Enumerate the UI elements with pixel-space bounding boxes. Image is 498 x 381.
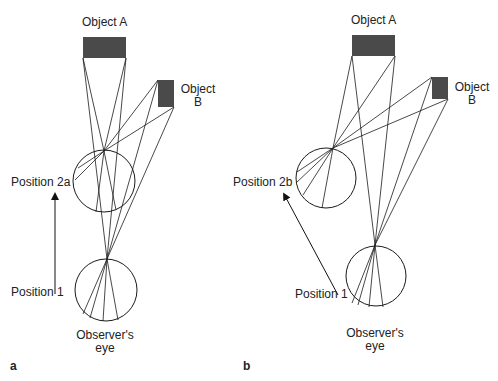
- light-ray-to-position-1: [103, 58, 126, 321]
- object-b-block: [158, 80, 174, 107]
- panel-a-object-b-label-line2: B: [178, 96, 218, 109]
- panel-b-object-b-label: Object B: [452, 81, 492, 107]
- eye-circle-position-2: [73, 150, 135, 212]
- panel-b-position-2b-label: Position 2b: [233, 176, 292, 189]
- object-a-block: [352, 35, 395, 56]
- panel-a-object-a-label: Object A: [82, 16, 127, 29]
- light-ray-to-position-1: [83, 107, 174, 314]
- eye-circle-position-2: [296, 148, 356, 208]
- panel-b-object-a-label: Object A: [351, 14, 396, 27]
- panel-a-letter: a: [10, 360, 17, 373]
- panel-b-observer-eye-label: Observer's eye: [340, 327, 410, 353]
- movement-arrow-icon: [285, 196, 338, 295]
- panel-b-position-1-label: Position 1: [295, 288, 348, 301]
- light-ray-to-position-1: [369, 56, 395, 307]
- object-b-block: [432, 77, 448, 99]
- panel-b-object-b-label-line2: B: [452, 94, 492, 107]
- panel-a-position-2a-label: Position 2a: [11, 176, 70, 189]
- panel-a-graphics: [55, 37, 174, 321]
- light-ray-to-position-2: [322, 56, 352, 208]
- light-ray-to-position-2: [104, 58, 126, 210]
- panel-a-eye-label-line2: eye: [70, 342, 140, 355]
- panel-b-graphics: [285, 35, 448, 307]
- panel-b-eye-label-line2: eye: [340, 340, 410, 353]
- panel-a-observer-eye-label: Observer's eye: [70, 329, 140, 355]
- light-ray-to-position-2: [303, 56, 395, 195]
- diagram-canvas: [0, 0, 498, 381]
- panel-b-letter: b: [243, 360, 250, 373]
- panel-a-position-1-label: Position 1: [11, 286, 64, 299]
- light-ray-to-position-1: [358, 99, 448, 305]
- light-ray-to-position-1: [352, 56, 383, 307]
- object-a-block: [83, 37, 126, 58]
- panel-a-object-b-label: Object B: [178, 83, 218, 109]
